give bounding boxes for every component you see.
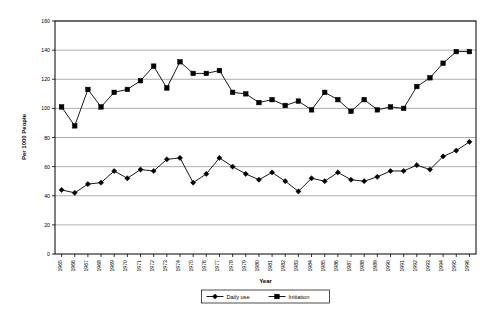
legend-label: Initiation xyxy=(289,294,310,300)
x-tick-label: 1971 xyxy=(136,260,142,272)
x-tick-label: 1989 xyxy=(372,260,378,272)
x-tick-label: 1979 xyxy=(241,260,247,272)
x-tick-label: 1984 xyxy=(307,260,313,272)
x-tick-label: 1980 xyxy=(254,260,260,272)
x-tick-label: 1972 xyxy=(149,260,155,272)
data-point-square xyxy=(178,59,183,64)
y-tick-label: 80 xyxy=(44,135,50,141)
x-tick-label: 1978 xyxy=(228,260,234,272)
x-tick-label: 1983 xyxy=(293,260,299,272)
data-point-square xyxy=(125,87,130,92)
chart-canvas: 020406080100120140160 196519661967196819… xyxy=(0,0,499,309)
data-point-square xyxy=(99,105,104,110)
y-tick-label: 100 xyxy=(41,105,50,111)
data-point-square xyxy=(322,90,327,95)
data-point-square xyxy=(309,108,314,113)
data-point-square xyxy=(349,109,354,114)
data-point-square xyxy=(375,108,380,113)
data-point-square xyxy=(401,106,406,111)
x-tick-label: 1969 xyxy=(109,260,115,272)
legend-label: Daily use xyxy=(227,294,250,300)
x-tick-label: 1966 xyxy=(70,260,76,272)
x-tick-label: 1985 xyxy=(320,260,326,272)
x-tick-label: 1968 xyxy=(96,260,102,272)
x-tick-label: 1988 xyxy=(359,260,365,272)
y-tick-label: 0 xyxy=(47,251,50,257)
data-point-square xyxy=(454,49,459,54)
data-point-square xyxy=(191,71,196,76)
data-point-square xyxy=(165,86,170,91)
x-axis-title: Year xyxy=(259,278,272,284)
data-point-square xyxy=(86,87,91,92)
data-point-square xyxy=(428,75,433,80)
data-point-square xyxy=(151,64,156,69)
data-point-square xyxy=(388,105,393,110)
x-tick-label: 1976 xyxy=(201,260,207,272)
legend-item-initiation[interactable]: Initiation xyxy=(269,294,310,300)
y-axis-title: Per 1000 People xyxy=(21,113,27,160)
x-tick-label: 1982 xyxy=(280,260,286,272)
x-tick-label: 1992 xyxy=(412,260,418,272)
x-tick-label: 1986 xyxy=(333,260,339,272)
data-point-square xyxy=(336,97,341,102)
x-tick-label: 1965 xyxy=(57,260,63,272)
chart-legend: Daily useInitiation xyxy=(202,290,330,303)
x-tick-label: 1987 xyxy=(346,260,352,272)
data-point-square xyxy=(217,68,222,73)
x-tick-label: 1996 xyxy=(464,260,470,272)
x-tick-label: 1970 xyxy=(122,260,128,272)
x-tick-label: 1975 xyxy=(188,260,194,272)
data-point-square xyxy=(270,97,275,102)
data-point-square xyxy=(414,84,419,89)
y-tick-label: 40 xyxy=(44,193,50,199)
y-tick-label: 120 xyxy=(41,76,50,82)
data-point-square xyxy=(230,90,235,95)
data-point-square xyxy=(112,90,117,95)
x-tick-label: 1981 xyxy=(267,260,273,272)
y-tick-label: 20 xyxy=(44,222,50,228)
x-tick-label: 1967 xyxy=(83,260,89,272)
data-point-square xyxy=(283,103,288,108)
data-point-square xyxy=(243,92,248,97)
x-tick-label: 1974 xyxy=(175,260,181,272)
x-tick-label: 1991 xyxy=(399,260,405,272)
y-tick-label: 140 xyxy=(41,47,50,53)
data-point-square xyxy=(204,71,209,76)
data-point-square xyxy=(441,61,446,66)
x-tick-label: 1977 xyxy=(214,260,220,272)
data-point-square xyxy=(467,49,472,54)
y-tick-label: 60 xyxy=(44,164,50,170)
line-chart: 020406080100120140160 196519661967196819… xyxy=(0,0,499,309)
x-tick-label: 1990 xyxy=(385,260,391,272)
data-point-square xyxy=(59,105,64,110)
data-point-square xyxy=(275,294,280,299)
x-tick-label: 1994 xyxy=(438,260,444,272)
data-point-square xyxy=(138,78,143,83)
data-point-square xyxy=(257,100,262,105)
x-tick-label: 1993 xyxy=(425,260,431,272)
data-point-square xyxy=(296,99,301,104)
x-tick-label: 1995 xyxy=(451,260,457,272)
x-tick-label: 1973 xyxy=(162,260,168,272)
data-point-square xyxy=(72,124,77,129)
y-tick-label: 160 xyxy=(41,18,50,24)
data-point-square xyxy=(362,97,367,102)
